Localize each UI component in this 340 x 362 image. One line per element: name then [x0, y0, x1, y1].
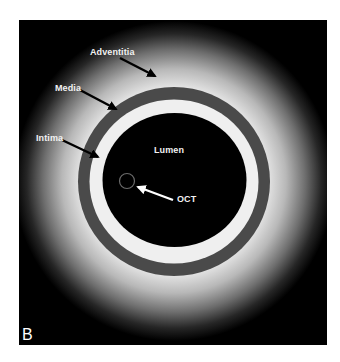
oct-label: OCT	[177, 195, 196, 204]
vessel-diagram-svg	[19, 20, 327, 345]
intima-label: Intima	[36, 134, 63, 143]
panel-letter: B	[22, 327, 33, 343]
lumen-label: Lumen	[154, 146, 184, 155]
adventitia-label: Adventitia	[90, 48, 135, 57]
lumen	[103, 113, 247, 247]
media-label: Media	[55, 84, 81, 93]
vessel-cross-section-diagram: Adventitia Media Intima Lumen OCT B	[19, 20, 327, 345]
